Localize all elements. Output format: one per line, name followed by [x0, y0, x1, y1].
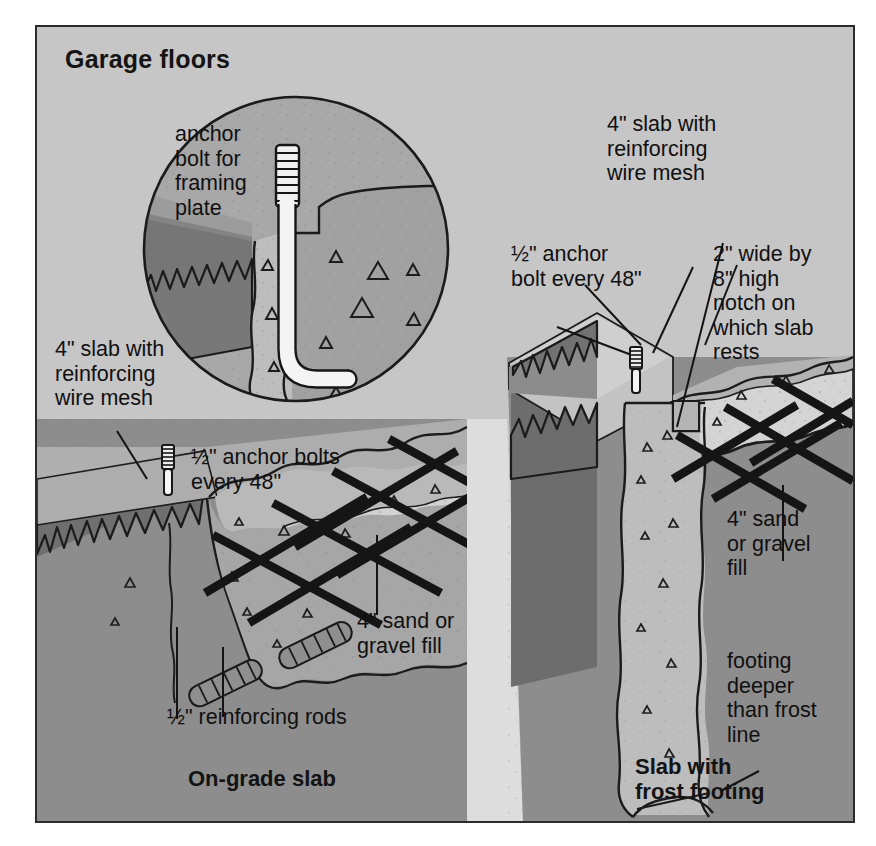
left-fill-label: 4" sand or gravel fill: [357, 609, 454, 658]
right-figure-caption: Slab with frost footing: [635, 755, 765, 804]
right-anchor-bolt-label: ½" anchor bolt every 48": [511, 242, 642, 291]
detail-anchor-bolt-label: anchor bolt for framing plate: [175, 122, 247, 220]
right-slab-label: 4" slab with reinforcing wire mesh: [607, 112, 716, 186]
illustration-panel: Garage floors anchor bolt for framing pl…: [35, 25, 855, 823]
page-title: Garage floors: [65, 45, 230, 74]
left-figure-caption: On-grade slab: [188, 767, 336, 792]
left-anchor-bolts-label: ½" anchor bolts every 48": [191, 445, 340, 494]
right-notch-label: 2" wide by 8" high notch on which slab r…: [713, 242, 813, 365]
figure-root: Garage floors anchor bolt for framing pl…: [0, 0, 876, 846]
left-rods-label: ½" reinforcing rods: [167, 705, 347, 730]
right-footing-label: footing deeper than frost line: [727, 649, 817, 747]
left-slab-label: 4" slab with reinforcing wire mesh: [55, 337, 164, 411]
right-fill-label: 4" sand or gravel fill: [727, 507, 811, 581]
